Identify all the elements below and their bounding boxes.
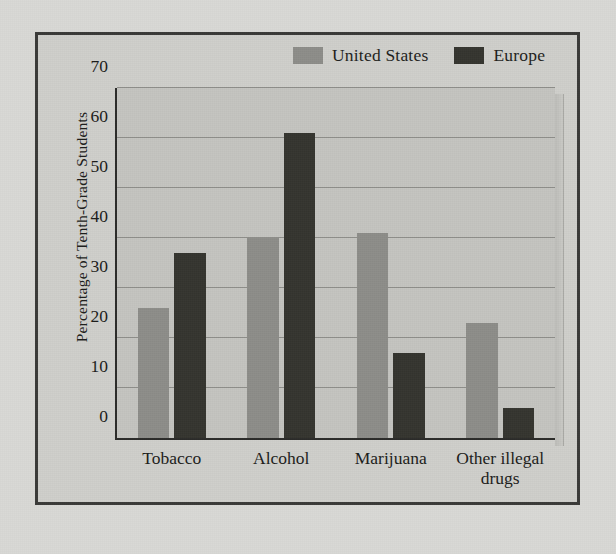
bar-united-states-marijuana <box>357 233 389 438</box>
y-tick-label-50: 50 <box>91 156 109 177</box>
chart-legend: United States Europe <box>293 45 545 66</box>
bar-europe-other-illegal <box>503 408 535 438</box>
plot-area: 010203040506070 TobaccoAlcoholMarijuanaO… <box>115 88 555 440</box>
bar-europe-marijuana <box>393 353 425 438</box>
bar-group: Tobacco <box>117 88 227 438</box>
y-tick-label-20: 20 <box>91 306 109 327</box>
bar-group: Alcohol <box>227 88 337 438</box>
bar-united-states-tobacco <box>138 308 170 438</box>
legend-swatch-united-states <box>293 47 323 64</box>
y-tick-label-0: 0 <box>99 406 108 427</box>
x-tick-label: Other illegaldrugs <box>435 449 565 488</box>
bar-group: Other illegaldrugs <box>446 88 556 438</box>
legend-entry-united-states: United States <box>293 45 428 66</box>
legend-entry-europe: Europe <box>454 45 545 66</box>
y-tick-label-70: 70 <box>91 56 109 77</box>
y-tick-label-60: 60 <box>91 106 109 127</box>
y-tick-label-10: 10 <box>91 356 109 377</box>
bar-united-states-other-illegal <box>466 323 498 438</box>
y-axis-label: Percentage of Tenth-Grade Students <box>73 62 91 392</box>
legend-label-europe: Europe <box>493 45 545 66</box>
bar-europe-tobacco <box>174 253 206 438</box>
figure-frame: United States Europe Percentage of Tenth… <box>35 32 580 505</box>
bar-united-states-alcohol <box>247 238 279 438</box>
legend-swatch-europe <box>454 47 484 64</box>
plot-wrapper: 010203040506070 TobaccoAlcoholMarijuanaO… <box>115 88 555 440</box>
bar-europe-alcohol <box>284 133 316 438</box>
y-tick-label-30: 30 <box>91 256 109 277</box>
y-tick-label-40: 40 <box>91 206 109 227</box>
bar-group: Marijuana <box>336 88 446 438</box>
legend-label-united-states: United States <box>332 45 428 66</box>
plot-3d-side-face <box>555 94 564 446</box>
